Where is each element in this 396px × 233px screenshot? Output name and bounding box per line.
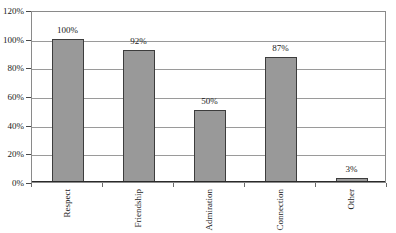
y-tick-label: 40% [8,121,25,130]
bar-value-label: 92% [130,37,147,46]
x-category-label-connection: Connection [275,189,284,231]
x-tick-mark [386,183,387,187]
x-category-slot: Connection [244,187,315,233]
bar-value-label: 50% [201,97,218,106]
bar-chart: 0%20%40%60%80%100%120% 100%92%50%87%3% R… [0,0,396,233]
bar-slot: 50% [174,12,245,182]
x-category-slot: Respect [31,187,102,233]
x-category-label-respect: Respect [62,189,71,218]
bar-slot: 92% [103,12,174,182]
bar-connection[interactable] [265,57,297,182]
bar-value-label: 87% [272,44,289,53]
x-category-slot: Admiration [173,187,244,233]
y-tick-label: 0% [12,179,24,188]
y-tick-label: 60% [8,93,25,102]
x-axis: RespectFriendshipAdmirationConnectionOth… [31,183,386,233]
bar-value-label: 3% [346,165,358,174]
bar-slot: 3% [316,12,387,182]
bar-value-label: 100% [57,26,78,35]
x-category-slot: Friendship [102,187,173,233]
y-tick-label: 20% [8,150,25,159]
y-tick-label: 100% [3,35,24,44]
plot-area: 100%92%50%87%3% [31,11,386,183]
y-tick-label: 80% [8,64,25,73]
bar-slot: 87% [245,12,316,182]
bar-admiration[interactable] [194,110,226,182]
bar-friendship[interactable] [123,50,155,182]
y-tick-label: 120% [3,7,24,16]
category-axis-line [32,181,385,182]
x-category-label-admiration: Admiration [204,189,213,231]
bar-respect[interactable] [52,39,84,182]
x-category-label-friendship: Friendship [133,189,142,228]
x-category-slot: Other [315,187,386,233]
x-category-label-other: Other [346,189,355,210]
bar-slot: 100% [32,12,103,182]
y-axis: 0%20%40%60%80%100%120% [0,0,31,233]
